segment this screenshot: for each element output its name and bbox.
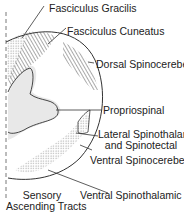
label-ventral-spinothalamic: Ventral Spinothalamic	[80, 190, 182, 201]
label-lateral-spinothalamic: Lateral Spinothalamic and Spinotectal	[98, 129, 184, 151]
label-ventral-spinocerebellar: Ventral Spinocerebellar	[90, 155, 184, 166]
dorsal-spinocerebellar-region	[63, 42, 98, 90]
label-dorsal-spinocerebellar: Dorsal Spinocerebellar	[96, 59, 184, 70]
label-propriospinal: Propriospinal	[103, 105, 164, 116]
label-fasciculus-cuneatus: Fasciculus Cuneatus	[67, 26, 164, 37]
diagram-title: Sensory Ascending Tracts	[6, 190, 78, 212]
label-fasciculus-gracilis: Fasciculus Gracilis	[49, 3, 137, 14]
